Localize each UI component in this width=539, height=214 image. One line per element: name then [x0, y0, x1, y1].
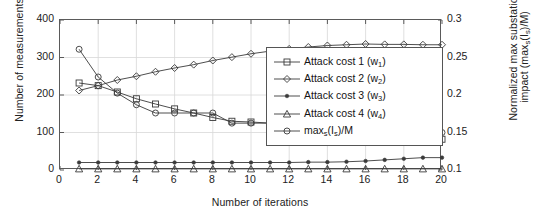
- legend-item-5[interactable]: maxs(Is)/M: [272, 123, 436, 140]
- legend-item-2[interactable]: Attack cost 2 (w2): [272, 70, 436, 87]
- x-axis-tick-label: 8: [197, 173, 227, 185]
- y-axis-right-tick-label: 0.2: [447, 87, 487, 99]
- legend-label: Attack cost 3 (w3): [302, 89, 386, 103]
- x-axis-tick-label: 4: [120, 173, 150, 185]
- chart-figure: Number of measurements Normalized max su…: [0, 0, 539, 214]
- y-axis-left-tick-label: 200: [20, 87, 54, 99]
- legend-label: Attack cost 4 (w4): [302, 107, 386, 121]
- x-axis-tick-label: 14: [311, 173, 341, 185]
- x-axis-tick-label: 12: [273, 173, 303, 185]
- legend-marker-square-icon: [272, 55, 302, 69]
- y-axis-right-tick-label: 0.3: [447, 12, 487, 24]
- x-axis-tick-label: 2: [82, 173, 112, 185]
- legend-label: Attack cost 2 (w2): [302, 72, 386, 86]
- x-axis-tick-label: 6: [159, 173, 189, 185]
- legend-marker-diamond-icon: [272, 72, 302, 86]
- x-axis-tick-label: 0: [44, 173, 74, 185]
- x-axis-tick-label: 16: [350, 173, 380, 185]
- y-axis-left-tick-label: 400: [20, 12, 54, 24]
- legend-item-3[interactable]: Attack cost 3 (w3): [272, 88, 436, 105]
- right-title-pre: impact (max: [518, 45, 530, 103]
- y-axis-right-title-line2: impact (maxs(Is)/M): [518, 0, 532, 127]
- y-axis-right-tick-label: 0.25: [447, 50, 487, 62]
- x-axis-tick-label: 10: [235, 173, 265, 185]
- y-axis-left-tick-label: 100: [20, 125, 54, 137]
- legend-label: Attack cost 1 (w1): [302, 55, 386, 69]
- right-title-sub2: s: [523, 30, 532, 34]
- legend-item-1[interactable]: Attack cost 1 (w1): [272, 53, 436, 70]
- legend-marker-circle-icon: [272, 124, 302, 138]
- chart-legend[interactable]: Attack cost 1 (w1)Attack cost 2 (w2)Atta…: [266, 47, 443, 146]
- series-3: [77, 156, 444, 164]
- y-axis-right-tick-label: 0.15: [447, 125, 487, 137]
- series-4: [76, 165, 446, 172]
- legend-label: maxs(Is)/M: [302, 124, 353, 138]
- x-axis-tick-label: 20: [426, 173, 456, 185]
- right-title-mid: (I: [518, 34, 530, 41]
- right-title-post: )/M): [518, 11, 530, 30]
- x-axis-tick-label: 18: [388, 173, 418, 185]
- legend-item-4[interactable]: Attack cost 4 (w4): [272, 105, 436, 122]
- legend-marker-triangle-icon: [272, 107, 302, 121]
- legend-marker-dot-filled-icon: [272, 89, 302, 103]
- x-axis-title: Number of iterations: [160, 196, 360, 208]
- right-title-sub1: s: [523, 41, 532, 45]
- y-axis-left-tick-label: 300: [20, 50, 54, 62]
